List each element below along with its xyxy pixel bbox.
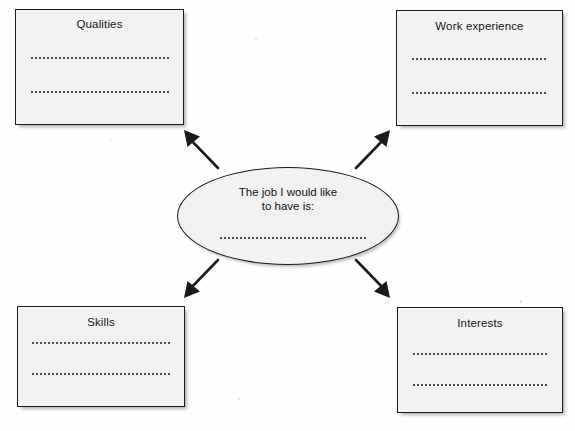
box-interests[interactable]: Interests — [397, 307, 563, 413]
box-qualities-title: Qualities — [16, 18, 183, 30]
work-experience-answer-line-1[interactable] — [411, 58, 548, 60]
scan-speckle — [520, 300, 522, 303]
scan-speckle — [110, 140, 112, 141]
box-skills-title: Skills — [18, 316, 184, 328]
arrow-up-right-icon — [352, 126, 396, 170]
qualities-answer-line-1[interactable] — [30, 57, 169, 59]
box-skills[interactable]: Skills — [17, 306, 185, 407]
interests-answer-line-1[interactable] — [412, 353, 548, 355]
worksheet-page: Qualities Work experience Skills Interes… — [0, 0, 575, 431]
center-prompt-text: The job I would like to have is: — [178, 185, 398, 213]
arrow-down-left-icon — [178, 258, 222, 302]
arrow-up-left-icon — [178, 126, 222, 170]
work-experience-answer-line-2[interactable] — [411, 92, 548, 94]
center-answer-line[interactable] — [219, 237, 366, 239]
skills-answer-line-1[interactable] — [31, 342, 170, 344]
box-work-experience[interactable]: Work experience — [396, 10, 563, 126]
skills-answer-line-2[interactable] — [31, 373, 170, 375]
qualities-answer-line-2[interactable] — [30, 91, 169, 93]
box-work-experience-title: Work experience — [397, 20, 562, 32]
box-qualities[interactable]: Qualities — [15, 9, 184, 125]
arrow-down-right-icon — [352, 258, 396, 302]
scan-speckle — [238, 398, 240, 400]
box-interests-title: Interests — [398, 317, 562, 329]
interests-answer-line-2[interactable] — [412, 384, 548, 386]
center-ellipse[interactable]: The job I would like to have is: — [177, 167, 399, 265]
scan-speckle — [255, 38, 257, 40]
